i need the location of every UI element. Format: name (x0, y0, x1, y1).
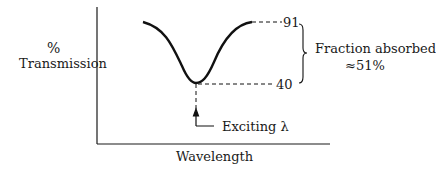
transmission-curve (143, 22, 252, 83)
y-axis-label-percent: % (47, 41, 60, 56)
exciting-arrow-icon (194, 109, 215, 126)
annotation-percent: ≈51% (345, 58, 385, 73)
brace-icon (299, 24, 307, 83)
annotation-fraction: Fraction absorbed (315, 41, 436, 56)
x-axis-label: Wavelength (176, 149, 253, 164)
lower-value: 40 (276, 77, 293, 92)
exciting-label: Exciting λ (222, 119, 289, 134)
upper-value: 91 (283, 15, 300, 30)
y-axis-label: Transmission (19, 56, 107, 71)
